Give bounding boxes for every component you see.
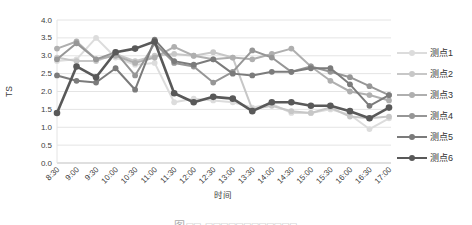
x-tick-label: 14:30 (275, 165, 296, 186)
series-marker-3 (328, 78, 334, 84)
series-marker-3 (367, 92, 373, 98)
series-line-1 (57, 38, 389, 129)
series-marker-3 (152, 55, 158, 61)
series-marker-3 (386, 98, 392, 104)
chart-figure: 0.00.51.01.52.02.53.03.54.08:309:009:301… (0, 0, 472, 225)
series-line-6 (57, 41, 389, 118)
legend-line-marker-icon (397, 48, 427, 58)
legend-item-4: 测点4 (397, 105, 472, 126)
x-tick-label: 15:00 (295, 165, 316, 186)
x-tick-label: 13:00 (217, 165, 238, 186)
x-tick-label: 15:30 (314, 165, 335, 186)
series-marker-6 (327, 103, 334, 110)
series-marker-6 (190, 99, 197, 106)
legend-item-6: 测点6 (397, 147, 472, 168)
legend-item-1: 测点1 (397, 42, 472, 63)
series-marker-5 (230, 71, 236, 77)
series-marker-1 (93, 35, 99, 41)
series-marker-5 (386, 92, 392, 98)
series-marker-1 (152, 60, 158, 66)
legend-label: 测点5 (430, 130, 453, 143)
legend-line-marker-icon (397, 111, 427, 121)
series-marker-5 (171, 58, 177, 64)
series-marker-6 (386, 104, 393, 111)
series-marker-2 (308, 110, 314, 116)
series-marker-5 (249, 73, 255, 79)
series-marker-3 (191, 53, 197, 59)
y-tick-label: 1.5 (41, 105, 53, 114)
series-marker-3 (249, 56, 255, 62)
series-marker-6 (132, 45, 139, 52)
series-marker-5 (113, 65, 119, 71)
x-tick-label: 11:00 (139, 165, 159, 185)
legend-line-marker-icon (397, 132, 427, 142)
series-marker-6 (171, 90, 178, 97)
chart-legend: 测点1测点2测点3测点4测点5测点6 (397, 42, 472, 168)
y-tick-label: 1.0 (41, 123, 53, 132)
series-marker-5 (367, 103, 373, 109)
x-tick-label: 9:00 (64, 165, 82, 183)
series-marker-2 (288, 108, 294, 114)
series-marker-4 (210, 80, 216, 86)
series-marker-6 (151, 38, 158, 45)
series-marker-2 (210, 49, 216, 55)
y-tick-label: 3.5 (41, 33, 53, 42)
x-tick-label: 13:30 (236, 165, 257, 186)
x-axis-title: 时间 (214, 190, 232, 200)
series-marker-6 (288, 99, 295, 106)
series-line-4 (57, 43, 389, 95)
series-marker-6 (308, 103, 315, 110)
x-tick-label: 10:00 (99, 165, 120, 186)
series-marker-6 (112, 49, 119, 56)
x-tick-label: 11:30 (158, 165, 178, 185)
legend-line-marker-icon (397, 90, 427, 100)
y-tick-label: 2.0 (41, 87, 53, 96)
x-tick-label: 16:00 (334, 165, 355, 186)
x-tick-label: 12:00 (178, 165, 199, 186)
series-marker-3 (230, 55, 236, 61)
series-marker-6 (229, 95, 236, 102)
legend-label: 测点6 (430, 151, 453, 164)
series-marker-5 (308, 65, 314, 71)
series-marker-4 (367, 83, 373, 89)
series-marker-6 (73, 63, 80, 70)
series-marker-6 (347, 108, 354, 115)
x-tick-label: 10:30 (119, 165, 140, 186)
series-marker-6 (269, 99, 276, 106)
legend-item-5: 测点5 (397, 126, 472, 147)
legend-label: 测点2 (430, 67, 453, 80)
y-tick-label: 2.5 (41, 69, 53, 78)
series-marker-5 (191, 62, 197, 68)
series-marker-6 (210, 94, 217, 101)
legend-label: 测点3 (430, 88, 453, 101)
series-marker-5 (93, 80, 99, 86)
x-tick-label: 16:30 (353, 165, 374, 186)
series-marker-3 (288, 46, 294, 52)
series-marker-4 (347, 74, 353, 80)
series-marker-4 (132, 73, 138, 79)
series-marker-6 (366, 115, 373, 122)
series-marker-6 (249, 108, 256, 115)
x-tick-label: 14:00 (256, 165, 277, 186)
y-tick-label: 0.5 (41, 141, 53, 150)
series-marker-1 (171, 99, 177, 105)
series-marker-2 (386, 114, 392, 120)
series-marker-2 (171, 51, 177, 57)
series-marker-5 (328, 65, 334, 71)
series-marker-5 (54, 73, 60, 79)
y-axis-title: TS (4, 86, 14, 97)
legend-line-marker-icon (397, 69, 427, 79)
legend-label: 测点1 (430, 46, 453, 59)
series-marker-5 (132, 87, 138, 93)
x-tick-label: 17:00 (373, 165, 394, 186)
series-marker-2 (347, 114, 353, 120)
legend-item-3: 测点3 (397, 84, 472, 105)
legend-label: 测点4 (430, 109, 453, 122)
series-marker-5 (74, 78, 80, 84)
caption-cropped: 图□□ □□□□□□□□□□□□ (0, 216, 472, 225)
series-marker-4 (93, 56, 99, 62)
series-marker-5 (210, 56, 216, 62)
x-tick-label: 12:30 (197, 165, 218, 186)
series-marker-3 (132, 60, 138, 66)
series-marker-6 (93, 74, 100, 81)
